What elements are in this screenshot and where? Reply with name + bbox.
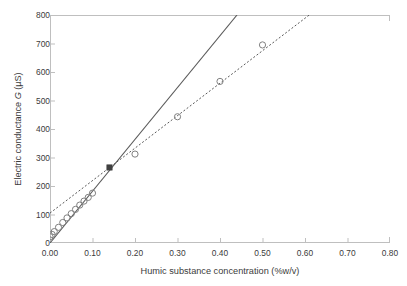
data-marker-circle bbox=[174, 114, 180, 120]
x-tick-label: 0.00 bbox=[28, 248, 72, 258]
x-tick-label: 0.40 bbox=[198, 248, 242, 258]
y-tick-label: 700 bbox=[10, 40, 50, 48]
y-tick-label: 400 bbox=[10, 125, 50, 133]
x-tick-label: 0.10 bbox=[71, 248, 115, 258]
chart-figure: Electric conductance G (µS) Humic substa… bbox=[0, 0, 407, 286]
x-tick-label: 0.20 bbox=[113, 248, 157, 258]
y-axis-label-prefix: Electric conductance bbox=[13, 99, 23, 185]
trend-lines bbox=[50, 15, 309, 243]
y-tick-label: 200 bbox=[10, 182, 50, 190]
y-tick-label: 0 bbox=[10, 239, 50, 247]
data-marker-circle bbox=[259, 42, 265, 48]
x-tick-label: 0.30 bbox=[156, 248, 200, 258]
data-marker-filled-square bbox=[107, 165, 112, 170]
y-tick-label: 500 bbox=[10, 97, 50, 105]
y-tick-label: 600 bbox=[10, 68, 50, 76]
axis-ticks bbox=[50, 16, 390, 244]
y-tick-label: 300 bbox=[10, 154, 50, 162]
x-axis-label: Humic substance concentration (%w/v) bbox=[50, 266, 390, 276]
data-marker-circle bbox=[132, 151, 138, 157]
x-tick-label: 0.50 bbox=[241, 248, 285, 258]
y-tick-label: 100 bbox=[10, 211, 50, 219]
axes-frame bbox=[50, 15, 390, 243]
x-tick-label: 0.80 bbox=[368, 248, 407, 258]
data-points bbox=[50, 42, 266, 240]
y-tick-label: 800 bbox=[10, 11, 50, 19]
plot-svg bbox=[50, 15, 390, 243]
x-tick-label: 0.60 bbox=[283, 248, 327, 258]
x-tick-label: 0.70 bbox=[326, 248, 370, 258]
plot-area bbox=[50, 15, 390, 243]
